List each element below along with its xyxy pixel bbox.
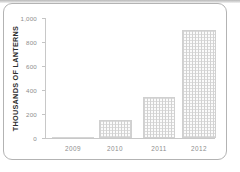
y-tick-400: 400	[42, 90, 45, 91]
y-axis-title-label: THOUSANDS OF LANTERNS	[12, 25, 21, 130]
y-tick-label-200: 200	[26, 111, 37, 118]
y-tick-800: 800	[42, 42, 45, 43]
y-tick-label-1000: 1,000	[21, 15, 37, 22]
x-tick-label-2012: 2012	[191, 145, 207, 152]
y-tick-600: 600	[42, 66, 45, 67]
y-tick-label-600: 600	[26, 63, 37, 70]
y-tick-200: 200	[42, 114, 45, 115]
x-tick-label-2010: 2010	[107, 145, 123, 152]
y-tick-0: 0	[42, 138, 45, 139]
y-tick-label-800: 800	[26, 39, 37, 46]
x-tick-label-2011: 2011	[151, 145, 167, 152]
bar-2011	[143, 97, 175, 138]
bar-2012	[182, 30, 216, 138]
bar-2010	[99, 120, 132, 138]
y-tick-1000: 1,000	[42, 18, 45, 19]
bar-2009	[52, 137, 94, 138]
y-tick-label-0: 0	[33, 135, 37, 142]
x-tick-label-2009: 2009	[65, 145, 81, 152]
x-axis-line	[45, 138, 215, 139]
plot-area: 0 200 400 600 800 1,000 2009	[45, 18, 215, 138]
y-axis-line	[45, 18, 46, 139]
chart-card: THOUSANDS OF LANTERNS 0 200 400 600 800 …	[3, 3, 227, 160]
y-tick-label-400: 400	[26, 87, 37, 94]
y-axis-title: THOUSANDS OF LANTERNS	[10, 18, 22, 138]
chart-screenshot: THOUSANDS OF LANTERNS 0 200 400 600 800 …	[0, 0, 240, 172]
